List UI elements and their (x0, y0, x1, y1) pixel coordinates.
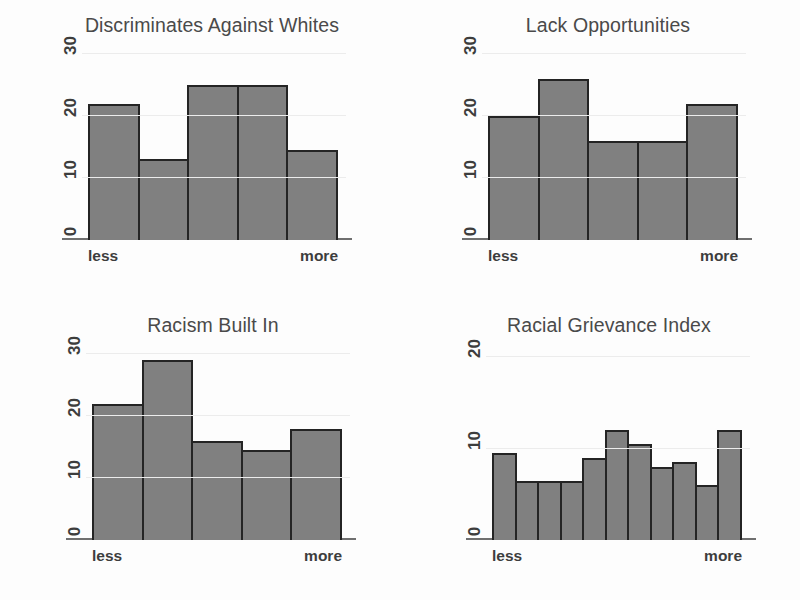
y-tick-label: 20 (75, 408, 92, 427)
bar (637, 141, 689, 240)
bar (290, 429, 342, 540)
y-tick-label: 0 (471, 232, 488, 241)
y-tick-label: 0 (475, 532, 492, 541)
gridline (86, 353, 350, 354)
bar (237, 85, 289, 240)
gridline (486, 448, 750, 449)
plot-area: less more 01020 (492, 348, 742, 540)
bar (627, 444, 652, 540)
bar (672, 462, 697, 540)
y-tick-label: 30 (71, 46, 88, 65)
bar (695, 485, 720, 540)
bar (187, 85, 239, 240)
panel-title: Discriminates Against Whites (0, 14, 400, 37)
bar (92, 404, 144, 540)
y-tick-label: 10 (71, 170, 88, 189)
bar (138, 159, 190, 240)
plot-area: less more 0102030 (88, 48, 338, 240)
bar (88, 104, 140, 240)
y-tick-label: 10 (471, 170, 488, 189)
x-tick-label-less: less (92, 547, 122, 565)
bar (191, 441, 243, 540)
y-tick-label: 30 (75, 346, 92, 365)
bar (650, 467, 675, 540)
y-tick-label: 0 (71, 232, 88, 241)
bar (686, 104, 738, 240)
panel-title: Racism Built In (0, 314, 400, 337)
bar-group (88, 48, 338, 240)
x-tick-label-more: more (300, 247, 338, 265)
gridline (482, 115, 746, 116)
y-tick-label: 20 (475, 349, 492, 368)
histogram-panel-figure: Discriminates Against Whites less more 0… (0, 0, 800, 600)
y-tick-label: 20 (471, 108, 488, 127)
bar (537, 481, 562, 540)
x-tick-label-more: more (304, 547, 342, 565)
bar-group (488, 48, 738, 240)
gridline (82, 53, 346, 54)
gridline (482, 177, 746, 178)
gridline (482, 53, 746, 54)
bar (492, 453, 517, 540)
x-tick-label-more: more (704, 547, 742, 565)
y-tick-label: 0 (75, 532, 92, 541)
bar (515, 481, 540, 540)
bar (142, 360, 194, 540)
bar (587, 141, 639, 240)
gridline (82, 115, 346, 116)
y-tick-label: 30 (471, 46, 488, 65)
bar (582, 458, 607, 540)
bar-group (92, 348, 342, 540)
panel-lack-opportunities: Lack Opportunities less more 0102030 (400, 0, 800, 300)
bar (538, 79, 590, 240)
panel-discriminates-against-whites: Discriminates Against Whites less more 0… (0, 0, 400, 300)
bar (286, 150, 338, 240)
x-tick-label-less: less (488, 247, 518, 265)
y-tick-label: 20 (71, 108, 88, 127)
panel-racism-built-in: Racism Built In less more 0102030 (0, 300, 400, 600)
gridline (86, 477, 350, 478)
plot-area: less more 0102030 (92, 348, 342, 540)
bar-group (492, 348, 742, 540)
gridline (486, 356, 750, 357)
plot-area: less more 0102030 (488, 48, 738, 240)
panel-title: Lack Opportunities (400, 14, 800, 37)
gridline (82, 177, 346, 178)
y-tick-label: 10 (75, 470, 92, 489)
bar (560, 481, 585, 540)
panel-racial-grievance-index: Racial Grievance Index less more 01020 (400, 300, 800, 600)
x-tick-label-more: more (700, 247, 738, 265)
panel-title: Racial Grievance Index (400, 314, 800, 337)
x-tick-label-less: less (88, 247, 118, 265)
x-tick-label-less: less (492, 547, 522, 565)
bar (241, 450, 293, 540)
y-tick-label: 10 (475, 440, 492, 459)
gridline (86, 415, 350, 416)
